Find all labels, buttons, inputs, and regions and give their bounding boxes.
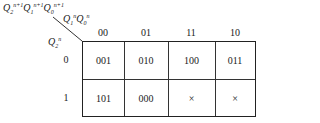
cell-0-11: 100 xyxy=(168,55,215,66)
cell-1-10: × xyxy=(215,93,255,104)
cell-1-01: 000 xyxy=(124,93,168,104)
cell-0-00: 001 xyxy=(83,55,124,66)
row-header-1: 1 xyxy=(60,92,72,103)
cell-0-01: 010 xyxy=(124,55,168,66)
column-header-00: 00 xyxy=(88,27,118,38)
column-header-10: 10 xyxy=(220,27,250,38)
row-header-0: 0 xyxy=(60,54,72,65)
column-header-11: 11 xyxy=(176,27,206,38)
grid-divider xyxy=(83,79,255,80)
karnaugh-map-grid: 001 010 100 011 101 000 × × xyxy=(82,41,256,117)
cell-0-10: 011 xyxy=(215,55,255,66)
cell-1-00: 101 xyxy=(83,93,124,104)
cell-1-11: × xyxy=(168,93,215,104)
column-header-01: 01 xyxy=(131,27,161,38)
